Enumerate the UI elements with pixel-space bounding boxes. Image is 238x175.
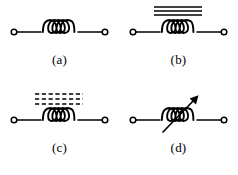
left-terminal-node — [11, 117, 17, 123]
coil-winding — [162, 108, 194, 121]
right-terminal-node — [102, 29, 108, 35]
panel-a-air-core-inductor: (a) — [0, 0, 119, 87]
solid-core-lines — [154, 7, 202, 15]
panel-b-caption: (b) — [119, 52, 238, 68]
panel-c-caption: (c) — [0, 140, 119, 156]
right-terminal-node — [102, 117, 108, 123]
panel-b-iron-core-inductor: (b) — [119, 0, 238, 87]
coil-winding — [162, 20, 194, 33]
left-terminal-node — [130, 29, 136, 35]
left-terminal-node — [11, 29, 17, 35]
coil-winding — [43, 20, 75, 33]
coil-winding — [43, 108, 75, 121]
inductor-symbols-figure: (a) (b) — [0, 0, 238, 175]
panel-c-ferrite-core-inductor: (c) — [0, 88, 119, 175]
panel-d-variable-inductor: (d) — [119, 88, 238, 175]
panel-d-caption: (d) — [119, 140, 238, 156]
panel-a-caption: (a) — [0, 52, 119, 68]
dashed-core-lines — [35, 94, 83, 104]
right-terminal-node — [221, 29, 227, 35]
left-terminal-node — [130, 117, 136, 123]
right-terminal-node — [221, 117, 227, 123]
